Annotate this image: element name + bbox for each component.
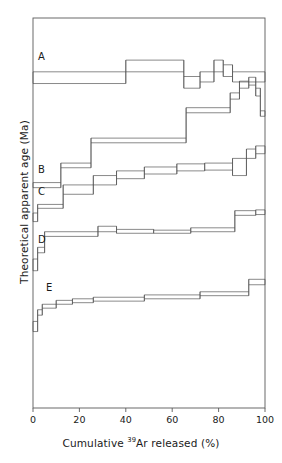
spectrum-b bbox=[33, 77, 265, 187]
spectrum-label-b: B bbox=[38, 164, 45, 175]
spectrum-a-upper-bound bbox=[33, 60, 265, 76]
spectrum-label-c: C bbox=[38, 186, 45, 197]
x-axis-label-prefix: Cumulative bbox=[62, 437, 127, 449]
spectrum-c-lower-bound bbox=[33, 154, 265, 222]
spectrum-e-upper-bound bbox=[33, 279, 265, 321]
x-axis-label-suffix: Ar released (%) bbox=[136, 437, 220, 449]
spectrum-e bbox=[33, 279, 265, 331]
spectrum-d bbox=[33, 210, 265, 271]
spectra-series bbox=[33, 60, 265, 331]
age-spectrum-figure: Theoretical apparent age (Ma) 0204060801… bbox=[0, 0, 282, 463]
x-tick-label-100: 100 bbox=[250, 414, 280, 425]
spectrum-d-lower-bound bbox=[33, 215, 265, 271]
x-axis-ticks bbox=[33, 408, 265, 412]
spectrum-b-lower-bound bbox=[33, 85, 265, 188]
spectrum-label-a: A bbox=[38, 51, 45, 62]
x-tick-label-20: 20 bbox=[64, 414, 94, 425]
spectrum-c-upper-bound bbox=[33, 146, 265, 213]
spectrum-label-e: E bbox=[46, 282, 52, 293]
x-axis-label-superscript: 39 bbox=[127, 436, 136, 444]
spectrum-c bbox=[33, 146, 265, 222]
x-tick-label-0: 0 bbox=[18, 414, 48, 425]
x-tick-label-80: 80 bbox=[204, 414, 234, 425]
spectrum-d-upper-bound bbox=[33, 210, 265, 259]
x-axis-label: Cumulative 39Ar released (%) bbox=[0, 436, 282, 449]
spectrum-label-d: D bbox=[38, 234, 46, 245]
x-tick-label-40: 40 bbox=[111, 414, 141, 425]
x-tick-label-60: 60 bbox=[157, 414, 187, 425]
spectrum-a bbox=[33, 60, 265, 88]
spectrum-a-lower-bound bbox=[33, 72, 265, 88]
plot-canvas bbox=[0, 0, 282, 463]
